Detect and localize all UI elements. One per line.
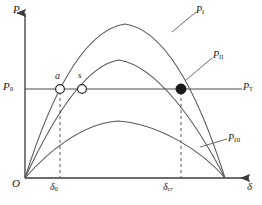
tick-deltacr-label: δcr xyxy=(163,182,173,192)
point-a-label: a xyxy=(55,71,60,81)
pt-subscript: T xyxy=(249,85,253,92)
point-s-label: s xyxy=(78,71,82,80)
curve-p1-label: PI xyxy=(196,5,204,15)
curve-p2-label: PII xyxy=(213,50,223,60)
curve-p2-subscript: II xyxy=(219,53,223,60)
marker-point-a xyxy=(56,85,65,94)
tick-deltacr-subscript: cr xyxy=(168,185,173,192)
curve-p1 xyxy=(25,24,225,178)
curve-p3-label: PIII xyxy=(228,133,240,143)
tick-delta0-subscript: 0 xyxy=(55,185,58,192)
x-axis-label: δ xyxy=(247,181,252,192)
curve-p3-subscript: III xyxy=(234,136,240,143)
pt-level-label: PT xyxy=(243,82,253,92)
p0-level-label: P0 xyxy=(3,81,13,93)
tick-delta0-label: δ0 xyxy=(50,182,58,192)
power-angle-figure: P δ O P0 PT PI PII PIII a s δ0 δcr xyxy=(0,0,262,205)
leader-line-p1 xyxy=(172,12,196,32)
figure-canvas xyxy=(0,0,262,205)
p0-base: P xyxy=(3,80,10,92)
y-axis-label: P xyxy=(13,4,20,15)
leader-line-p2 xyxy=(186,58,212,80)
marker-point-s xyxy=(78,85,87,94)
p0-subscript: 0 xyxy=(10,85,13,92)
curve-p1-subscript: I xyxy=(202,8,204,15)
origin-label: O xyxy=(12,178,20,189)
marker-point-critical xyxy=(176,84,186,94)
curve-p3 xyxy=(25,121,225,178)
